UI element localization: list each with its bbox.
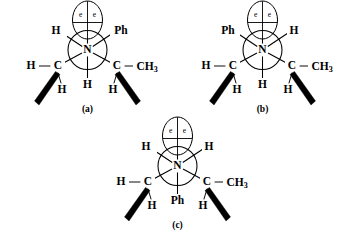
left-arm-h-lower-a: H — [58, 83, 67, 95]
left-arm-h-left-a: H — [27, 59, 36, 71]
methyl-base-a: CH — [136, 59, 153, 71]
substituent-upper-right-c: H — [205, 140, 214, 152]
right-arm-carbon-a: C — [113, 59, 121, 71]
substituent-upper-right-a: Ph — [114, 24, 128, 36]
caption-c: (c) — [172, 220, 183, 231]
left-arm-carbon-c: C — [144, 175, 152, 187]
center-atom-n-b: N — [258, 43, 267, 55]
structure-b: e e N Ph H C H H H — [175, 0, 350, 119]
structure-a: e e N H Ph C — [0, 0, 175, 119]
right-arm-carbon-c: C — [203, 175, 211, 187]
substituent-bottom-center-b: H — [258, 78, 267, 90]
left-arm-h-lower-b: H — [233, 83, 242, 95]
caption-a: (a) — [82, 104, 93, 115]
left-arm-carbon-a: C — [54, 59, 62, 71]
structure-c: e e N H H C H H — [90, 116, 265, 235]
methyl-base-c: CH — [226, 175, 243, 187]
right-arm-h-lower-c: H — [199, 199, 208, 211]
right-arm-h-lower-a: H — [109, 83, 118, 95]
left-arm-h-lower-c: H — [148, 199, 157, 211]
substituent-upper-left-b: Ph — [221, 24, 235, 36]
right-arm-carbon-b: C — [288, 59, 296, 71]
methyl-base-b: CH — [311, 59, 328, 71]
methyl-subscript-b: 3 — [329, 64, 333, 73]
substituent-upper-left-a: H — [52, 24, 61, 36]
caption-b: (b) — [257, 104, 269, 115]
left-arm-h-left-b: H — [202, 59, 211, 71]
center-atom-n-a: N — [83, 43, 92, 55]
substituent-upper-left-c: H — [142, 140, 151, 152]
left-arm-carbon-b: C — [229, 59, 237, 71]
right-arm-h-lower-b: H — [284, 83, 293, 95]
methyl-subscript-c: 3 — [244, 180, 248, 189]
chemical-structures-figure: e e N H Ph C — [0, 0, 350, 238]
methyl-subscript-a: 3 — [154, 64, 158, 73]
center-atom-n-c: N — [173, 159, 182, 171]
substituent-bottom-center-a: H — [83, 78, 92, 90]
left-arm-h-left-c: H — [117, 175, 126, 187]
substituent-upper-right-b: H — [290, 24, 299, 36]
substituent-bottom-center-c: Ph — [171, 194, 185, 206]
